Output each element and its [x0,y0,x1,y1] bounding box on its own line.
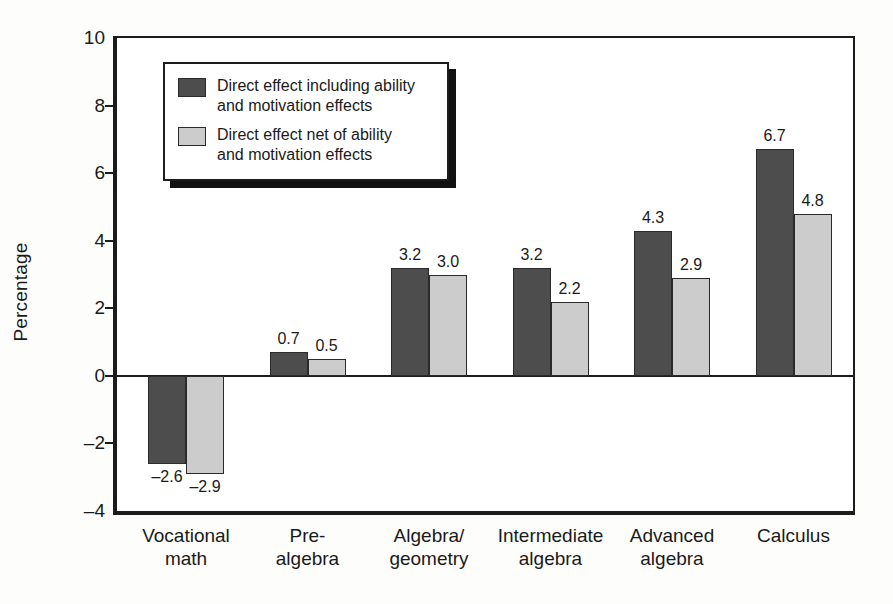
bar-value-label: 3.0 [416,254,480,270]
bar-value-label: 4.3 [621,210,685,226]
y-axis-label: –2 [61,433,105,452]
y-axis-tick [105,307,117,309]
bar-value-label: 2.2 [538,281,602,297]
x-axis-category-line: Calculus [719,524,869,547]
y-axis-tick [105,105,117,107]
bar-value-label: 2.9 [659,257,723,273]
y-axis-label: 6 [61,163,105,182]
y-axis-tick [105,375,117,377]
bar-value-label: 6.7 [743,128,807,144]
legend-label-1: Direct effect net of ability and motivat… [217,125,392,165]
x-axis-category-line: algebra [597,547,747,570]
y-axis-label: 8 [61,96,105,115]
bar [756,149,794,375]
y-axis-tick [105,442,117,444]
legend-label-0: Direct effect including ability and moti… [217,76,415,116]
legend-item-1: Direct effect net of ability and motivat… [178,125,392,165]
bar [672,278,710,376]
bar-chart-figure: Percentage –2.6–2.90.70.53.23.03.22.24.3… [0,0,893,604]
y-axis-title: Percentage [10,192,36,392]
zero-baseline [117,375,853,377]
y-axis-label: 4 [61,231,105,250]
bar [794,214,832,376]
bar [551,302,589,376]
bar [186,376,224,474]
bar-value-label: 4.8 [781,193,845,209]
bar-value-label: 0.5 [295,338,359,354]
bar [429,275,467,376]
chart-legend: Direct effect including ability and moti… [163,62,449,181]
bar-value-label: –2.9 [173,479,237,495]
legend-item-0: Direct effect including ability and moti… [178,76,415,116]
y-axis-label: 10 [61,28,105,47]
y-axis-label: 2 [61,298,105,317]
legend-swatch-light-icon [178,127,206,146]
y-axis-tick [105,240,117,242]
y-axis-tick [105,172,117,174]
bar [148,376,186,464]
x-axis-category-label: Calculus [719,524,869,547]
bar [308,359,346,376]
y-axis-label: –4 [61,501,105,520]
bar-value-label: 3.2 [500,247,564,263]
bar [270,352,308,376]
legend-swatch-dark-icon [178,78,206,97]
y-axis-label: 0 [61,366,105,385]
bar [634,231,672,376]
bar [391,268,429,376]
